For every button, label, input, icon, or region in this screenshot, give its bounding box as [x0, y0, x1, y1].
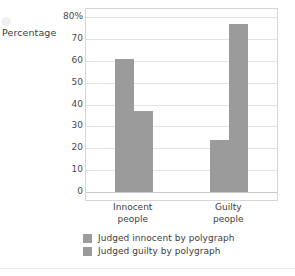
x-axis-category-labels: InnocentpeopleGuiltypeople	[85, 202, 278, 230]
category-label-line: Innocent	[113, 202, 152, 214]
y-tick-label-10: 10	[72, 164, 83, 174]
y-tick-label-70: 70	[72, 33, 83, 43]
legend-label: Judged innocent by polygraph	[98, 233, 235, 243]
gridline-70	[86, 39, 277, 40]
category-label-line: Guilty	[213, 202, 244, 214]
category-label-line: people	[113, 214, 152, 226]
bar-0-1	[134, 111, 153, 192]
plot-frame	[85, 8, 278, 201]
bar-1-1	[229, 24, 248, 192]
y-axis-title: Percentage	[2, 27, 56, 38]
category-label-0: Innocentpeople	[113, 202, 152, 225]
y-tick-label-20: 20	[72, 142, 83, 152]
legend-label: Judged guilty by polygraph	[98, 246, 221, 256]
category-label-line: people	[213, 214, 244, 226]
gridline-0	[86, 192, 277, 193]
y-tick-label-50: 50	[72, 77, 83, 87]
y-tick-label-30: 30	[72, 120, 83, 130]
legend-swatch-icon	[83, 247, 92, 256]
bar-chart-figure: Percentage 80%706050403020100 Innocentpe…	[0, 0, 295, 276]
chart-legend: Judged innocent by polygraphJudged guilt…	[83, 233, 235, 256]
scan-artifact-line	[0, 268, 295, 269]
y-tick-label-40: 40	[72, 99, 83, 109]
scan-artifact-smudge	[1, 17, 11, 26]
bar-1-0	[210, 140, 229, 193]
plot-area	[86, 9, 277, 200]
gridline-80	[86, 17, 277, 18]
legend-item-1: Judged guilty by polygraph	[83, 246, 235, 256]
bar-0-0	[115, 59, 134, 192]
category-label-1: Guiltypeople	[213, 202, 244, 225]
y-tick-label-80pct: 80%	[63, 11, 83, 21]
y-tick-label-0: 0	[77, 186, 83, 196]
legend-item-0: Judged innocent by polygraph	[83, 233, 235, 243]
legend-swatch-icon	[83, 234, 92, 243]
y-axis-tick-labels: 80%706050403020100	[50, 8, 83, 201]
y-tick-label-60: 60	[72, 55, 83, 65]
